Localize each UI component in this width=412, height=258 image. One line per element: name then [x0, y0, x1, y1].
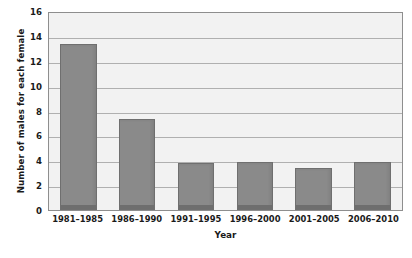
x-axis-tick-label: 1991–1995	[166, 214, 225, 224]
bar-slot	[343, 13, 402, 210]
y-axis-tick-label: 16	[30, 7, 42, 17]
x-axis-tick-label: 2006–2010	[344, 214, 403, 224]
x-axis-tick-labels: 1981–19851986–19901991–19951996–20002001…	[48, 214, 403, 224]
x-axis-tick-label: 1986–1990	[107, 214, 166, 224]
bar[interactable]	[237, 162, 273, 210]
bar[interactable]	[178, 163, 214, 210]
x-axis-title: Year	[48, 230, 403, 240]
y-axis-tick-label: 2	[36, 181, 42, 191]
bar-series	[49, 13, 402, 210]
y-axis-tick-label: 10	[30, 82, 42, 92]
bar-slot	[225, 13, 284, 210]
x-axis-tick-label: 1981–1985	[48, 214, 107, 224]
y-axis-tick-label: 4	[36, 156, 42, 166]
bar[interactable]	[354, 162, 390, 210]
bar[interactable]	[295, 168, 331, 210]
y-axis-tick-label: 14	[30, 32, 42, 42]
bar-slot	[108, 13, 167, 210]
bar-slot	[284, 13, 343, 210]
bar[interactable]	[119, 119, 155, 210]
y-axis-tick-label: 12	[30, 57, 42, 67]
y-axis-tick-label: 8	[36, 107, 42, 117]
bar[interactable]	[60, 44, 96, 210]
bar-chart-figure: Number of males for each female 02468101…	[0, 0, 412, 258]
y-axis-tick-label: 6	[36, 131, 42, 141]
y-axis-tick-label: 0	[36, 206, 42, 216]
x-axis-tick-label: 2001–2005	[285, 214, 344, 224]
y-axis-tick-labels: 0246810121416	[0, 0, 46, 258]
bar-slot	[49, 13, 108, 210]
bar-slot	[167, 13, 226, 210]
plot-area	[48, 12, 403, 211]
x-axis-tick-label: 1996–2000	[226, 214, 285, 224]
